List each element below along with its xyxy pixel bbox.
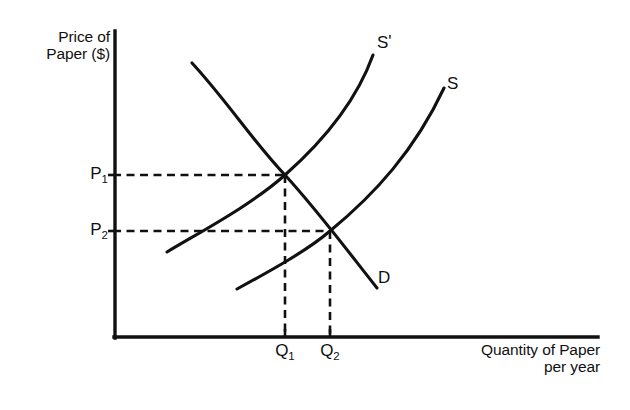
guideline-group-equilibrium-2 <box>113 231 330 337</box>
demand-curve-label: D <box>378 268 390 287</box>
quantity-1-letter: Q <box>275 341 288 360</box>
axes-group <box>114 31 598 338</box>
x-axis-title: Quantity of Paperper year <box>430 341 600 376</box>
guideline-group-equilibrium-1 <box>113 175 285 337</box>
y-axis-title-line-1: Price of <box>58 28 110 45</box>
supply-original-curve-label: S <box>447 74 458 93</box>
supply-shifted-label-letter: S <box>377 33 388 52</box>
y-axis-title-line-2: Paper ($) <box>46 45 110 62</box>
quantity-1-label: Q1 <box>268 341 302 360</box>
quantity-2-subscript: 2 <box>333 350 339 362</box>
quantity-2-label: Q2 <box>313 341 347 360</box>
price-1-letter: P <box>90 164 101 183</box>
price-2-letter: P <box>90 220 101 239</box>
price-2-subscript: 2 <box>102 229 108 241</box>
supply-shifted-curve-label: S' <box>377 33 391 52</box>
quantity-1-subscript: 1 <box>288 350 294 362</box>
price-1-subscript: 1 <box>102 173 108 185</box>
x-axis-title-line-1: Quantity of Paper <box>481 341 600 358</box>
x-axis-title-line-2: per year <box>544 358 600 375</box>
supply-shifted-label-prime: ' <box>388 32 391 51</box>
price-1-label: P1 <box>74 164 108 183</box>
price-2-label: P2 <box>74 220 108 239</box>
quantity-2-letter: Q <box>320 341 333 360</box>
supply-demand-diagram: Price ofPaper ($) Quantity of Paperper y… <box>0 0 630 410</box>
y-axis-title: Price ofPaper ($) <box>18 28 110 63</box>
